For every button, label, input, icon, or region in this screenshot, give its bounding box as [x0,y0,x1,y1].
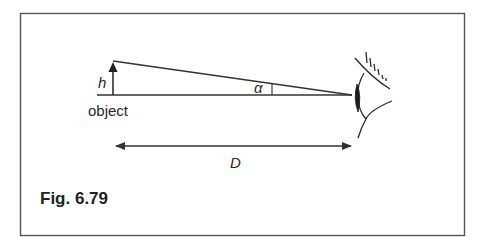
distance-label: D [230,154,241,171]
height-label: h [98,74,106,91]
angular-size-diagram: h object α D Fig. 6.79 [0,0,486,237]
angle-label: α [254,79,263,96]
figure-caption: Fig. 6.79 [40,189,108,208]
object-arrow [109,62,118,95]
sight-line [113,61,352,95]
eye-icon [355,52,392,138]
object-label: object [88,102,129,119]
